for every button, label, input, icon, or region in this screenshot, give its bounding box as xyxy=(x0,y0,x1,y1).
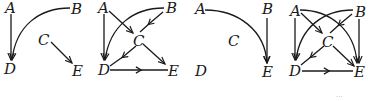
edge-c-e xyxy=(333,46,354,66)
graph-4: A B C D E xyxy=(288,2,366,81)
edge-c-d xyxy=(301,46,324,65)
node-a: A xyxy=(3,0,16,17)
node-d: D xyxy=(288,62,301,80)
node-a: A xyxy=(96,0,109,17)
node-b: B xyxy=(354,3,366,21)
node-e: E xyxy=(261,63,273,81)
node-e: E xyxy=(167,62,179,80)
node-e: E xyxy=(353,63,365,81)
node-c: C xyxy=(38,31,50,49)
edge-a-c xyxy=(109,11,133,33)
edge-c-e xyxy=(51,42,72,63)
edge-a-c xyxy=(301,13,322,33)
node-c: C xyxy=(133,32,145,50)
node-c: C xyxy=(322,33,334,51)
node-b: B xyxy=(70,0,82,18)
node-e: E xyxy=(71,62,83,80)
node-c: C xyxy=(228,32,240,50)
graph-2: A B C D E xyxy=(96,0,179,80)
diagram-canvas: A B C D E A B C D E A B C D E xyxy=(0,0,368,101)
node-b: B xyxy=(261,0,273,18)
edge-b-c xyxy=(140,12,163,32)
node-d: D xyxy=(3,60,16,78)
node-b: B xyxy=(165,0,177,17)
page-mark: ··· xyxy=(336,93,343,101)
node-a: A xyxy=(193,0,206,18)
node-d: D xyxy=(194,62,207,80)
edge-b-c xyxy=(330,14,352,33)
graph-1: A B C D E xyxy=(3,0,83,80)
node-d: D xyxy=(97,61,110,79)
graph-3: A B C D E xyxy=(193,0,273,81)
edge-c-e xyxy=(143,44,165,64)
node-a: A xyxy=(288,2,301,20)
